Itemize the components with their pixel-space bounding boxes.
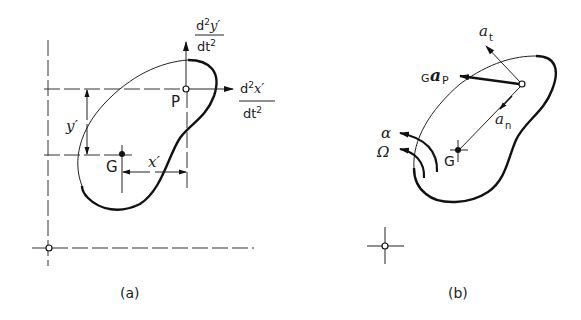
point-g-marker [119, 151, 125, 157]
svg-text:a: a [430, 65, 441, 85]
normal-accel-label: a n [495, 110, 511, 131]
point-g-marker [455, 147, 461, 153]
panel-b-caption: (b) [448, 285, 468, 301]
panel-a: P G y′ x′ d2y′ dt2 d2x′ dt2 (a) [32, 17, 275, 301]
svg-text:dt2: dt2 [243, 105, 262, 121]
svg-text:a: a [495, 110, 504, 128]
point-g-label: G [106, 158, 118, 176]
svg-text:t: t [489, 32, 493, 43]
point-g-label: G [444, 153, 455, 169]
tangential-accel-label: a t [479, 22, 493, 43]
point-p-marker [519, 81, 525, 87]
rigid-body-outline-thick [82, 60, 216, 210]
svg-text:dt2: dt2 [197, 38, 216, 54]
alpha-label: α [381, 124, 391, 142]
panel-b: α Ω G G a P a t a n (b) [367, 22, 556, 301]
rigid-body-kinematics-figure: P G y′ x′ d2y′ dt2 d2x′ dt2 (a) [0, 0, 581, 320]
rigid-body-outline-thin [78, 60, 188, 186]
dim-x-label: x′ [148, 153, 160, 171]
svg-text:n: n [505, 120, 511, 131]
panel-a-caption: (a) [120, 285, 140, 301]
accel-y-label: d2y′ dt2 [195, 17, 224, 54]
svg-text:P: P [442, 74, 449, 87]
angular-accel-arc [400, 133, 437, 172]
svg-text:a: a [479, 22, 488, 40]
svg-text:d2y′: d2y′ [196, 17, 220, 33]
point-p-marker [183, 86, 189, 92]
angular-velocity-arc [400, 149, 424, 178]
origin-marker [382, 243, 388, 249]
svg-text:d2x′: d2x′ [240, 80, 264, 96]
accel-x-label: d2x′ dt2 [239, 80, 275, 121]
normal-accel-arrow [500, 96, 512, 109]
tangential-accel-arrow [486, 46, 520, 82]
omega-label: Ω [376, 143, 389, 161]
relative-accel-arrow [460, 76, 519, 84]
relative-accel-label: G a P [421, 65, 449, 87]
point-p-label: P [171, 93, 180, 111]
svg-text:G: G [421, 72, 430, 85]
origin-marker [46, 245, 52, 251]
dim-y-label: y′ [65, 117, 78, 135]
